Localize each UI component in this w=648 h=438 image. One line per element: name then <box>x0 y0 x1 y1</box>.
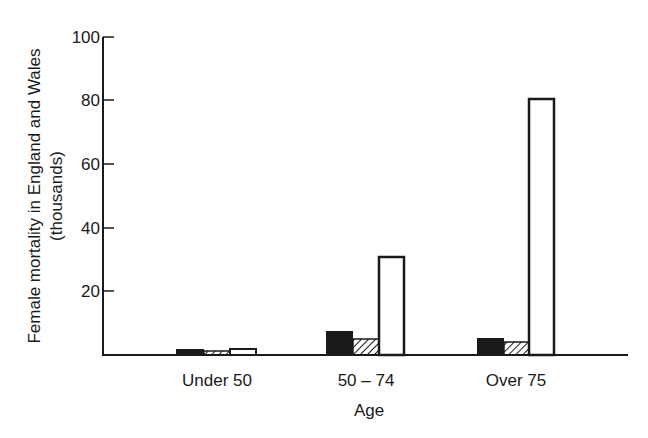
y-tick-label-60: 60 <box>81 155 100 174</box>
y-axis-subtitle: (thousands) <box>47 151 66 241</box>
bar-hatched-over-75 <box>504 342 529 355</box>
bar-chart: 100 80 60 40 20 Female mortality in Engl… <box>0 0 648 438</box>
bar-hatched-under-50 <box>204 351 230 355</box>
x-category-label-over-75: Over 75 <box>486 371 546 390</box>
y-tick-label-80: 80 <box>81 91 100 110</box>
bar-open-under-50 <box>230 349 256 355</box>
bar-group-over-75 <box>477 99 554 355</box>
bar-solid-over-75 <box>477 338 504 355</box>
x-category-label-under-50: Under 50 <box>182 371 252 390</box>
y-tick-label-20: 20 <box>81 282 100 301</box>
y-axis-title: Female mortality in England and Wales <box>25 48 44 343</box>
bar-solid-50-74 <box>326 331 353 355</box>
bar-open-over-75 <box>529 99 554 355</box>
bar-hatched-50-74 <box>353 339 379 355</box>
x-axis-title: Age <box>354 401 384 420</box>
bar-group-50-74 <box>326 257 404 355</box>
bar-solid-under-50 <box>176 349 204 355</box>
y-tick-label-40: 40 <box>81 219 100 238</box>
bar-open-50-74 <box>379 257 404 355</box>
bar-group-under-50 <box>176 349 256 355</box>
y-tick-label-100: 100 <box>72 28 100 47</box>
y-ticks <box>103 37 114 291</box>
x-category-label-50-74: 50 – 74 <box>338 371 395 390</box>
